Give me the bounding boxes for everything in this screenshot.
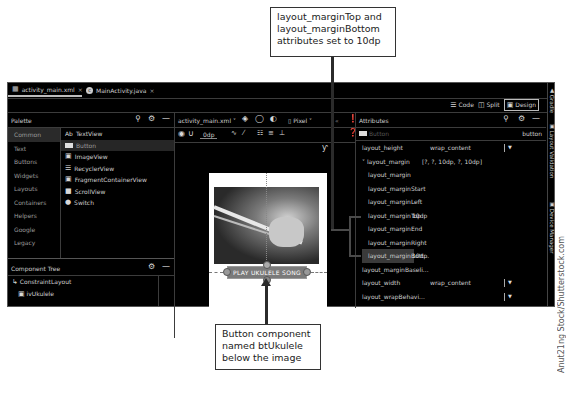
tree-item-ivukulele[interactable]: ▣ ivUkulele	[18, 290, 54, 298]
constraint-handle-right[interactable]	[303, 268, 311, 276]
tab-main-activity-java[interactable]: c MainActivity.java ×	[82, 83, 158, 97]
view-options-icon[interactable]: ◉	[178, 130, 185, 138]
device-dropdown[interactable]: ▯ Pixel ˅	[288, 117, 312, 124]
attr-layout-margin-end[interactable]: layout_marginEnd	[362, 222, 540, 236]
minimize-icon[interactable]: —	[162, 263, 170, 271]
attr-layout-margin-baseline[interactable]: layout_marginBaseli...	[362, 263, 540, 277]
design-surface-icon[interactable]: ◈	[242, 115, 248, 123]
attr-layout-margin-start[interactable]: layout_marginStart	[362, 182, 540, 196]
callout-connector	[331, 229, 351, 231]
attr-value-input[interactable]: wrap_content	[430, 141, 471, 155]
callout-connector	[349, 216, 351, 257]
divider	[8, 258, 174, 259]
palette-category-google[interactable]: Google	[8, 223, 60, 237]
divider	[8, 275, 174, 276]
expand-icon[interactable]: «	[335, 117, 339, 124]
phone-screen[interactable]: PLAY UKULELE SONG	[209, 173, 327, 308]
search-icon[interactable]: ⚲	[503, 115, 509, 123]
attr-layout-margin-right[interactable]: layout_marginRight	[362, 236, 540, 250]
gear-icon[interactable]: ⚙	[148, 115, 155, 123]
java-class-icon: c	[86, 87, 93, 94]
palette-category-common[interactable]: Common	[8, 128, 60, 142]
attr-value-input[interactable]: [?, ?, 10dp, ?, 10dp]	[422, 155, 482, 169]
design-view-button[interactable]: ▣ Design	[504, 99, 539, 111]
phone-icon: ▯	[288, 117, 291, 124]
attr-value-input[interactable]: 10dp	[412, 249, 427, 263]
palette-categories: Common Text Buttons Widgets Layouts Cont…	[8, 128, 60, 250]
palette-item-imageview[interactable]: ▣ImageView	[61, 151, 174, 163]
dropdown-arrow-icon[interactable]: ▼	[508, 276, 512, 290]
attr-layout-margin-bottom[interactable]: layout_marginBott...10dp	[362, 249, 414, 263]
tab-activity-main-xml[interactable]: ▦ activity_main.xml ×	[8, 83, 82, 97]
palette-items: AbTextView Button ▣ImageView ☰RecyclerVi…	[61, 128, 174, 209]
callout-line: layout_marginTop and	[277, 11, 389, 23]
palette-item-fragmentcontainerview[interactable]: ▣FragmentContainerView	[61, 174, 174, 186]
dropdown-arrow-icon[interactable]: ▼	[508, 141, 512, 155]
attr-value-input[interactable]: wrap_content	[430, 276, 471, 290]
callout-line: Button component	[222, 328, 314, 340]
layout-validation-tool-button[interactable]: ▣ Layout Validation	[549, 123, 555, 178]
attr-layout-width[interactable]: layout_widthwrap_content▼	[362, 276, 540, 290]
code-view-button[interactable]: ☰ Code	[450, 101, 474, 109]
switch-icon: ●	[65, 199, 71, 206]
pack-icon[interactable]: ☷	[257, 130, 263, 137]
pan-tool-icon[interactable]: ƴ	[322, 144, 328, 152]
split-view-button[interactable]: ◫ Split	[478, 101, 500, 109]
attr-layout-margin-left[interactable]: layout_marginLeft	[362, 195, 540, 209]
tab-label: activity_main.xml	[22, 86, 75, 93]
attr-value-input[interactable]: 10dp	[412, 209, 427, 223]
palette-category-text[interactable]: Text	[8, 142, 60, 156]
search-icon[interactable]: ⚲	[135, 115, 141, 123]
image-credit: Anut21ng Stock/Shutterstock.com	[557, 236, 566, 373]
gear-icon[interactable]: ⚙	[148, 263, 155, 271]
component-tree-panel: Component Tree ⚙ — ↳ ConstraintLayout ▣ …	[8, 261, 174, 306]
dropdown-arrow-icon[interactable]: ▼	[508, 290, 512, 304]
list-icon: ☰	[65, 165, 71, 172]
component-id[interactable]: button	[522, 130, 542, 137]
device-manager-tool-button[interactable]: ▣ Device Manager	[549, 201, 555, 253]
chevron-down-icon[interactable]: ˅	[362, 158, 365, 165]
minimize-icon[interactable]: —	[532, 115, 540, 123]
layout-file-dropdown[interactable]: activity_main.xml ˅	[178, 117, 236, 124]
close-tab-icon[interactable]: ×	[149, 87, 154, 94]
palette-item-switch[interactable]: ●Switch	[61, 197, 174, 209]
device-icon: ▣	[549, 201, 555, 207]
constraint-handle-top[interactable]	[263, 261, 271, 269]
magnet-icon[interactable]: ∪	[188, 130, 194, 138]
gear-icon[interactable]: ⚙	[518, 115, 525, 123]
attr-layout-margin-all[interactable]: layout_margin	[362, 168, 540, 182]
callout-connector	[331, 57, 334, 231]
constraint-handle-left[interactable]	[223, 268, 231, 276]
palette-category-buttons[interactable]: Buttons	[8, 155, 60, 169]
attr-layout-margin-top[interactable]: layout_marginTop10dp	[362, 209, 540, 223]
infer-constraints-icon[interactable]: ⁄	[243, 130, 244, 137]
palette-item-button[interactable]: Button	[61, 140, 174, 152]
button-icon	[359, 131, 367, 136]
palette-category-helpers[interactable]: Helpers	[8, 209, 60, 223]
minimize-icon[interactable]: —	[162, 115, 170, 123]
orientation-icon[interactable]: ◯	[255, 115, 264, 123]
gradle-tool-button[interactable]: ▲ Gradle	[549, 87, 555, 113]
align-icon[interactable]: ≡	[268, 130, 274, 137]
night-mode-icon[interactable]: ◐	[270, 115, 277, 123]
divider	[175, 127, 355, 128]
palette-category-layouts[interactable]: Layouts	[8, 182, 60, 196]
tree-item-constraintlayout[interactable]: ↳ ConstraintLayout	[12, 278, 71, 286]
palette-item-scrollview[interactable]: ■ScrollView	[61, 186, 174, 198]
horizontal-constraint-left	[209, 272, 223, 273]
attribute-rows: layout_heightwrap_content▼ ˅ layout_marg…	[362, 141, 540, 303]
palette-category-widgets[interactable]: Widgets	[8, 169, 60, 183]
palette-category-legacy[interactable]: Legacy	[8, 236, 60, 250]
attr-layout-wrap-behavior[interactable]: layout_wrapBehavi...▼	[362, 290, 540, 304]
palette-category-containers[interactable]: Containers	[8, 196, 60, 210]
palette-item-textview[interactable]: AbTextView	[61, 128, 174, 140]
palette-item-recyclerview[interactable]: ☰RecyclerView	[61, 163, 174, 175]
guidelines-icon[interactable]: ⊥	[279, 130, 285, 137]
clear-constraints-icon[interactable]: ∿	[231, 130, 237, 137]
right-tool-strip: ▲ Gradle ▣ Layout Validation ▣ Device Ma…	[547, 83, 556, 306]
attributes-panel: Attributes ⚲ ⚙ — Button button layout_he…	[356, 113, 546, 308]
attr-layout-height[interactable]: layout_heightwrap_content▼	[362, 141, 540, 155]
default-margin-field[interactable]: 0dp	[200, 131, 217, 139]
attr-layout-margin[interactable]: ˅ layout_margin[?, ?, 10dp, ?, 10dp]	[362, 155, 540, 169]
fragment-icon: ▣	[65, 176, 72, 183]
